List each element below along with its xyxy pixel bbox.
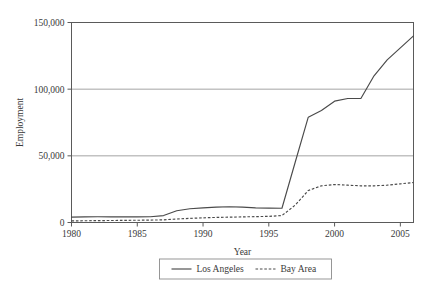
x-tick-label-2000: 2000 <box>325 229 344 239</box>
x-tick-label-1980: 1980 <box>62 229 81 239</box>
x-tick-label-1995: 1995 <box>259 229 278 239</box>
y-tick-label-150000: 150,000 <box>34 18 65 28</box>
y-tick-label-100000: 100,000 <box>34 85 65 95</box>
series-line-bay-area <box>72 183 414 221</box>
x-tick-label-1985: 1985 <box>128 229 147 239</box>
chart-canvas: 050,000100,000150,0001980198519901995200… <box>0 0 429 291</box>
y-tick-label-0: 0 <box>60 218 65 228</box>
y-axis-title: Employment <box>15 98 25 147</box>
legend-label-bay-area: Bay Area <box>281 264 317 274</box>
y-tick-label-50000: 50,000 <box>38 151 64 161</box>
legend-label-los-angeles: Los Angeles <box>197 264 245 274</box>
x-tick-label-1990: 1990 <box>194 229 213 239</box>
plot-frame <box>72 23 414 223</box>
employment-line-chart: 050,000100,000150,0001980198519901995200… <box>0 0 429 291</box>
x-axis-title: Year <box>234 247 252 257</box>
series-line-los-angeles <box>72 36 414 217</box>
x-tick-label-2005: 2005 <box>391 229 410 239</box>
